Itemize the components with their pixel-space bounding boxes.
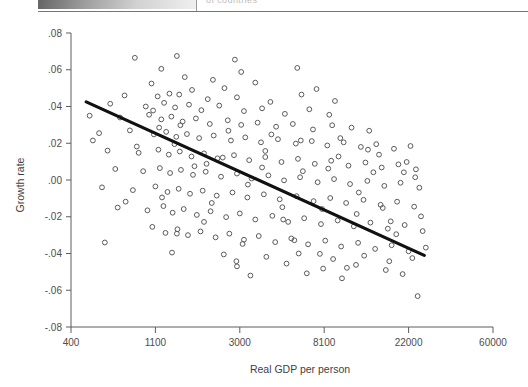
data-point (296, 156, 301, 161)
data-point (164, 129, 169, 134)
data-point (261, 192, 266, 197)
data-point (155, 94, 160, 99)
data-point (177, 92, 182, 97)
data-point (134, 144, 139, 149)
data-point (198, 229, 203, 234)
data-point (232, 57, 237, 62)
data-point (304, 271, 309, 276)
x-tick-label: 22000 (395, 337, 423, 348)
data-point (132, 55, 137, 60)
data-point (259, 140, 264, 145)
data-point (368, 220, 373, 225)
data-point (200, 188, 205, 193)
data-point (143, 104, 148, 109)
y-tick-label: -.02 (45, 211, 63, 222)
data-point (246, 182, 251, 187)
x-tick-label: 8100 (313, 337, 336, 348)
data-point (162, 100, 167, 105)
data-point (336, 154, 341, 159)
y-axis: .08.06.04.02.00-.02-.04-.06-.08 (45, 28, 71, 333)
data-point (326, 166, 331, 171)
data-point (423, 245, 428, 250)
data-point (230, 190, 235, 195)
data-point (227, 231, 232, 236)
data-point (344, 201, 349, 206)
data-point (156, 147, 161, 152)
data-point (374, 142, 379, 147)
y-tick-label: -.08 (45, 322, 63, 333)
data-point (192, 164, 197, 169)
data-point (131, 188, 136, 193)
data-point (229, 138, 234, 143)
data-point (115, 205, 120, 210)
data-point (176, 186, 181, 191)
y-tick-label: -.04 (45, 248, 63, 259)
data-point (170, 250, 175, 255)
data-point (157, 166, 162, 171)
data-point (377, 152, 382, 157)
data-point (331, 257, 336, 262)
data-point (217, 103, 222, 108)
y-tick-label: .00 (48, 175, 62, 186)
data-point (203, 169, 208, 174)
data-point (90, 138, 95, 143)
data-point (167, 91, 172, 96)
data-point (354, 212, 359, 217)
data-point (274, 124, 279, 129)
data-point (260, 106, 265, 111)
data-point (159, 117, 164, 122)
data-point (341, 140, 346, 145)
data-point (161, 204, 166, 209)
data-point (234, 259, 239, 264)
data-point (168, 171, 173, 176)
data-point (417, 185, 422, 190)
data-point (253, 217, 258, 222)
data-point (264, 254, 269, 259)
data-point (166, 152, 171, 157)
data-point (392, 146, 397, 151)
data-point (205, 97, 210, 102)
remnant-image-strip (38, 0, 196, 9)
data-point (197, 136, 202, 141)
data-point (153, 184, 158, 189)
data-point (263, 155, 268, 160)
data-point (87, 113, 92, 118)
data-point (365, 179, 370, 184)
data-point (367, 128, 372, 133)
data-point (165, 190, 170, 195)
x-tick-label: 1100 (145, 337, 167, 348)
data-point (159, 66, 164, 71)
data-point (371, 170, 376, 175)
data-point (408, 144, 413, 149)
data-point (312, 161, 317, 166)
remnant-horizontal-rule (38, 11, 528, 12)
data-point (174, 134, 179, 139)
data-point (398, 180, 403, 185)
data-point (349, 125, 354, 130)
data-point (113, 167, 118, 172)
data-point (273, 240, 278, 245)
data-point (361, 197, 366, 202)
data-point (97, 131, 102, 136)
data-point (412, 204, 417, 209)
data-point (356, 190, 361, 195)
data-point (239, 122, 244, 127)
data-point (263, 149, 268, 154)
data-point (209, 201, 214, 206)
data-point (333, 99, 338, 104)
data-point (243, 135, 248, 140)
data-point (346, 163, 351, 168)
data-point (253, 80, 258, 85)
data-point (199, 108, 204, 113)
data-point (157, 125, 162, 130)
data-point (348, 182, 353, 187)
data-points-layer (87, 54, 428, 299)
data-point (178, 123, 183, 128)
data-point (187, 102, 192, 107)
data-point (282, 111, 287, 116)
scatter-plot-figure: .08.06.04.02.00-.02-.04-.06-.08 40011003… (0, 13, 528, 387)
data-point (293, 141, 298, 146)
data-point (402, 223, 407, 228)
data-point (260, 165, 265, 170)
data-point (177, 149, 182, 154)
